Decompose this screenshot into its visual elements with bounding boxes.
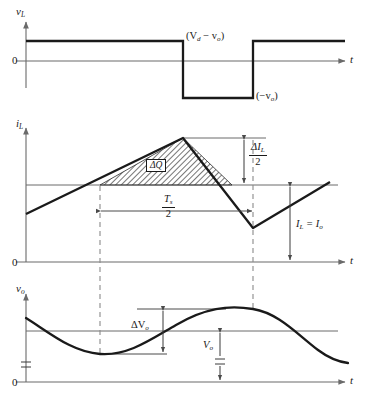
delta-il-over-2-label: ΔIL 2 bbox=[249, 142, 267, 168]
il-axis-label: iL bbox=[16, 118, 23, 131]
minus-vo-label: (−vo) bbox=[256, 91, 278, 103]
vo-t-label: t bbox=[350, 375, 353, 386]
il-t-label: t bbox=[350, 255, 353, 266]
vo-waveform bbox=[26, 307, 348, 363]
panel-inductor-current bbox=[16, 128, 345, 275]
vo-average-label: Vo bbox=[203, 340, 213, 352]
waveform-figure: vL 0 t (Vd − vo) (−vo) iL 0 t ΔQ ΔIL 2 T… bbox=[0, 0, 376, 400]
vl-origin-label: 0 bbox=[12, 55, 18, 66]
delta-vo-label: ΔVo bbox=[131, 320, 149, 332]
vo-origin-label: 0 bbox=[12, 377, 18, 388]
panel-output-voltage bbox=[16, 276, 348, 382]
panel-inductor-voltage bbox=[16, 22, 345, 98]
vl-t-label: t bbox=[350, 54, 353, 65]
vl-waveform bbox=[26, 41, 345, 98]
vo-axis-label: vo bbox=[16, 283, 25, 296]
il-origin-label: 0 bbox=[12, 257, 18, 268]
ts-over-2-label: Ts 2 bbox=[162, 194, 175, 220]
il-equals-io-label: IL = Io bbox=[296, 219, 323, 231]
vl-axis-label: vL bbox=[16, 6, 25, 19]
waveform-canvas bbox=[0, 0, 376, 400]
vd-minus-vo-label: (Vd − vo) bbox=[186, 31, 224, 43]
delta-q-label: ΔQ bbox=[146, 155, 166, 171]
